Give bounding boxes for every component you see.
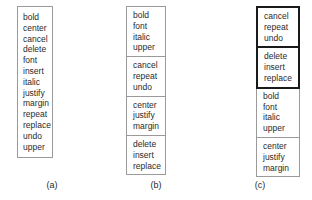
menu-item-insert[interactable]: insert xyxy=(18,66,52,77)
menu-item-delete[interactable]: delete xyxy=(18,44,52,55)
menu-item-bold[interactable]: bold xyxy=(18,12,52,23)
panel-a: boldcentercanceldeletefontinsertitalicju… xyxy=(0,0,104,200)
menu-item-delete[interactable]: delete xyxy=(127,139,165,150)
caption-b: (b) xyxy=(104,180,208,190)
menu-group: cancelrepeatundo xyxy=(256,6,300,48)
menu-item-margin[interactable]: margin xyxy=(257,163,299,174)
menu-item-repeat[interactable]: repeat xyxy=(127,71,165,82)
menu-item-cancel[interactable]: cancel xyxy=(127,60,165,71)
menu-item-insert[interactable]: insert xyxy=(127,150,165,161)
menu-item-replace[interactable]: replace xyxy=(258,73,298,84)
menu-box-a[interactable]: boldcentercanceldeletefontinsertitalicju… xyxy=(17,6,53,158)
panel-c: cancelrepeatundodeleteinsertreplaceboldf… xyxy=(208,0,312,200)
caption-a: (a) xyxy=(0,180,104,190)
menu-item-repeat[interactable]: repeat xyxy=(18,109,52,120)
menu-item-center[interactable]: center xyxy=(257,141,299,152)
menu-group: deleteinsertreplace xyxy=(256,46,300,88)
menu-item-italic[interactable]: italic xyxy=(257,112,299,123)
panel-b: boldfontitalicuppercancelrepeatundocente… xyxy=(104,0,208,200)
menu-item-cancel[interactable]: cancel xyxy=(18,34,52,45)
menu-item-bold[interactable]: bold xyxy=(127,10,165,21)
menu-item-delete[interactable]: delete xyxy=(258,51,298,62)
menu-item-font[interactable]: font xyxy=(18,55,52,66)
menu-item-center[interactable]: center xyxy=(127,100,165,111)
menu-box-b[interactable]: boldfontitalicuppercancelrepeatundocente… xyxy=(126,6,166,175)
menu-item-font[interactable]: font xyxy=(127,21,165,32)
menu-item-margin[interactable]: margin xyxy=(18,98,52,109)
menu-item-replace[interactable]: replace xyxy=(127,161,165,172)
menu-item-cancel[interactable]: cancel xyxy=(258,11,298,22)
menu-item-undo[interactable]: undo xyxy=(127,82,165,93)
menu-item-undo[interactable]: undo xyxy=(258,33,298,44)
menu-group: centerjustifymargin xyxy=(257,137,299,176)
menu-item-center[interactable]: center xyxy=(18,23,52,34)
menu-item-italic[interactable]: italic xyxy=(18,77,52,88)
menu-group: boldfontitalicupper xyxy=(257,88,299,137)
menu-item-font[interactable]: font xyxy=(257,102,299,113)
menu-item-justify[interactable]: justify xyxy=(127,110,165,121)
menu-group: cancelrepeatundo xyxy=(127,56,165,95)
menu-group: centerjustifymargin xyxy=(127,96,165,135)
menu-item-repeat[interactable]: repeat xyxy=(258,22,298,33)
menu-item-replace[interactable]: replace xyxy=(18,120,52,131)
menu-group: deleteinsertreplace xyxy=(127,135,165,174)
menu-item-undo[interactable]: undo xyxy=(18,131,52,142)
menu-item-upper[interactable]: upper xyxy=(18,142,52,153)
caption-c: (c) xyxy=(208,180,312,190)
menu-item-insert[interactable]: insert xyxy=(258,62,298,73)
menu-item-bold[interactable]: bold xyxy=(257,91,299,102)
menu-group: boldfontitalicupper xyxy=(127,7,165,56)
menu-item-upper[interactable]: upper xyxy=(127,42,165,53)
menu-group: boldcentercanceldeletefontinsertitalicju… xyxy=(18,9,52,155)
menu-item-upper[interactable]: upper xyxy=(257,123,299,134)
menu-item-justify[interactable]: justify xyxy=(18,88,52,99)
menu-grouping-figure: boldcentercanceldeletefontinsertitalicju… xyxy=(0,0,312,200)
menu-item-margin[interactable]: margin xyxy=(127,121,165,132)
menu-box-c[interactable]: cancelrepeatundodeleteinsertreplaceboldf… xyxy=(256,6,300,177)
menu-item-justify[interactable]: justify xyxy=(257,152,299,163)
menu-item-italic[interactable]: italic xyxy=(127,32,165,43)
